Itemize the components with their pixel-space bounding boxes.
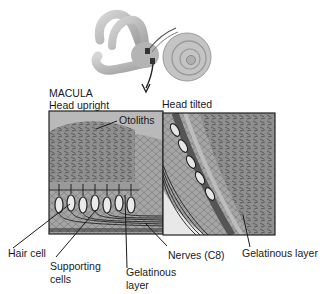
label-gelatinous-left-1: Gelatinous — [126, 266, 176, 278]
panel-label-head-tilted: Head tilted — [162, 98, 212, 110]
panel-head-upright — [49, 111, 163, 234]
panel-head-tilted — [163, 113, 275, 235]
label-gelatinous-right: Gelatinous layer — [242, 247, 318, 259]
label-supporting-cells-2: cells — [50, 273, 71, 285]
label-supporting-cells-1: Supporting — [50, 260, 101, 272]
panel-label-head-upright: Head upright — [49, 99, 109, 111]
label-nerves: Nerves (C8) — [168, 249, 225, 261]
otoliths-layer — [49, 121, 135, 188]
label-otoliths: Otoliths — [119, 114, 155, 126]
label-gelatinous-left-2: layer — [126, 279, 149, 291]
section-title-macula: MACULA — [49, 87, 93, 99]
inner-ear-labyrinth-illustration — [96, 14, 211, 92]
label-hair-cell: Hair cell — [8, 247, 46, 259]
